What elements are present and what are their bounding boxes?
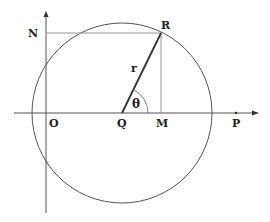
- radius-QR: [122, 33, 161, 113]
- label-N: N: [28, 27, 38, 40]
- label-Q: Q: [117, 117, 127, 130]
- label-M: M: [156, 117, 168, 130]
- diagram-canvas: N R r θ O Q M P: [0, 0, 270, 222]
- label-O: O: [49, 117, 59, 130]
- label-R: R: [161, 19, 171, 32]
- label-theta: θ: [132, 97, 140, 111]
- label-r: r: [131, 62, 137, 75]
- point-P-dot: [235, 112, 238, 115]
- label-P: P: [232, 117, 240, 130]
- y-axis-arrow-icon: [44, 11, 49, 17]
- x-axis-arrow-icon: [252, 111, 259, 116]
